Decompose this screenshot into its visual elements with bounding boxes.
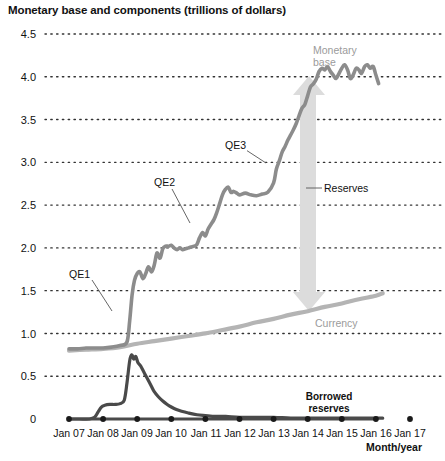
y-tick-4.0: 4.0: [10, 71, 36, 83]
annotation-monetary-base-line2: base: [313, 56, 336, 68]
qe1-leader: [92, 280, 112, 311]
x-tick-dot-Jan 10: [168, 416, 174, 422]
annotation-monetary-base: Monetary base: [313, 44, 357, 68]
y-tick-0: 0: [10, 413, 36, 425]
annotation-monetary-base-line1: Monetary: [313, 44, 357, 56]
qe3-leader: [246, 150, 266, 163]
x-tick-dot-Jan 13: [271, 416, 277, 422]
reserves-arrow-icon: [293, 76, 325, 311]
x-tick-dot-Jan 16: [373, 416, 379, 422]
annotation-qe3: QE3: [224, 139, 247, 151]
x-tick-dot-Jan 08: [100, 416, 106, 422]
y-tick-0.5: 0.5: [10, 370, 36, 382]
qe2-leader: [172, 189, 190, 223]
y-tick-1.0: 1.0: [10, 328, 36, 340]
y-tick-2.0: 2.0: [10, 242, 36, 254]
x-tick-dot-Jan 12: [237, 416, 243, 422]
x-tick-jan10: Jan 10: [151, 427, 191, 439]
y-tick-1.5: 1.5: [10, 285, 36, 297]
annotation-borrowed-reserves-line1: Borrowed: [306, 391, 353, 402]
y-tick-3.0: 3.0: [10, 156, 36, 168]
annotation-borrowed-reserves: Borrowed reserves: [289, 391, 369, 415]
annotation-reserves: Reserves: [323, 182, 369, 194]
x-tick-dot-Jan 07: [66, 416, 72, 422]
x-tick-dot-Jan 15: [339, 416, 345, 422]
x-tick-dot-Jan 11: [203, 416, 209, 422]
chart-plot-area: [0, 0, 445, 461]
y-tick-2.5: 2.5: [10, 199, 36, 211]
x-axis-label: Month/year: [366, 441, 422, 453]
chart-figure: Monetary base and components (trillions …: [0, 0, 445, 461]
x-tick-jan17: Jan 17: [390, 427, 430, 439]
annotation-qe2: QE2: [153, 176, 176, 188]
x-tick-dot-Jan 14: [305, 416, 311, 422]
annotation-borrowed-reserves-line2: reserves: [308, 403, 349, 414]
annotation-currency: Currency: [315, 317, 358, 329]
y-tick-3.5: 3.5: [10, 114, 36, 126]
y-tick-4.5: 4.5: [10, 28, 36, 40]
x-tick-dot-Jan 17: [407, 416, 413, 422]
x-tick-dot-Jan 09: [134, 416, 140, 422]
annotation-qe1: QE1: [68, 268, 91, 280]
